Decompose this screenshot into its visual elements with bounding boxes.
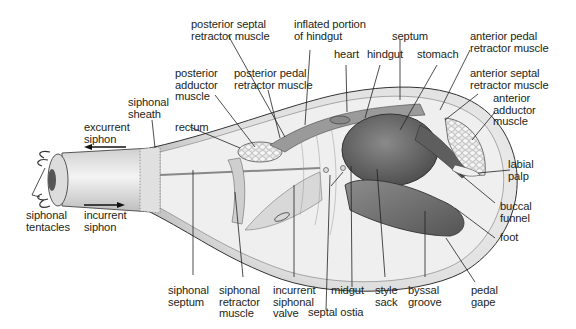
siphon-tube <box>62 148 152 212</box>
label-posterior-adductor-muscle: posterior adductor muscle <box>175 68 218 103</box>
label-posterior-pedal-retractor-muscle: posterior pedal retractor muscle <box>234 68 313 91</box>
label-siphonal-septum: siphonal septum <box>168 285 209 308</box>
label-foot: foot <box>500 232 518 244</box>
label-style-sack: style sack <box>375 285 398 308</box>
label-inflated-portion-of-hindgut: inflated portion of hindgut <box>294 19 366 42</box>
label-siphonal-tentacles: siphonal tentacles <box>26 210 70 233</box>
label-siphonal-sheath: siphonal sheath <box>128 97 169 120</box>
label-excurrent-siphon: excurrent siphon <box>84 122 130 145</box>
label-rectum: rectum <box>175 122 209 134</box>
label-anterior-pedal-retractor-muscle: anterior pedal retractor muscle <box>470 31 549 54</box>
label-byssal-groove: byssal groove <box>408 285 442 308</box>
label-posterior-septal-retractor-muscle: posterior septal retractor muscle <box>191 19 270 42</box>
heart <box>330 116 350 124</box>
label-hindgut: hindgut <box>367 49 403 61</box>
label-incurrent-siphon: incurrent siphon <box>84 210 127 233</box>
label-septal-ostia: septal ostia <box>308 307 363 319</box>
label-midgut: midgut <box>331 285 364 297</box>
label-anterior-adductor-muscle: anterior adductor muscle <box>493 93 536 128</box>
label-pedal-gape: pedal gape <box>471 285 498 308</box>
label-septum: septum <box>392 31 428 43</box>
label-labial-palp: labial palp <box>508 159 534 182</box>
stomach <box>342 114 438 186</box>
label-buccal-funnel: buccal funnel <box>500 201 532 224</box>
label-heart: heart <box>334 49 359 61</box>
label-stomach: stomach <box>417 49 459 61</box>
label-anterior-septal-retractor-muscle: anterior septal retractor muscle <box>470 68 549 91</box>
label-siphonal-retractor-muscle: siphonal retractor muscle <box>219 285 260 320</box>
anatomy-diagram: posterior septal retractor muscle inflat… <box>0 0 576 329</box>
